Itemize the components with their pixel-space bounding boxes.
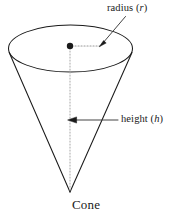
radius-label-close-paren: ) bbox=[144, 2, 148, 13]
radius-label-word: radius bbox=[107, 2, 133, 13]
cone-left-side-line bbox=[9, 53, 70, 193]
radius-leader-line bbox=[103, 17, 126, 44]
figure-caption: Cone bbox=[0, 198, 172, 211]
cone-figure: radius (r) height (h) Cone bbox=[0, 0, 172, 219]
base-center-dot bbox=[67, 43, 73, 49]
height-label-word: height bbox=[121, 113, 148, 124]
radius-label: radius (r) bbox=[107, 3, 147, 14]
cone-drawing bbox=[0, 0, 172, 219]
height-label: height (h) bbox=[121, 114, 163, 125]
height-label-close-paren: ) bbox=[160, 113, 164, 124]
radius-arrowhead bbox=[99, 41, 106, 47]
height-arrowhead bbox=[68, 117, 77, 123]
